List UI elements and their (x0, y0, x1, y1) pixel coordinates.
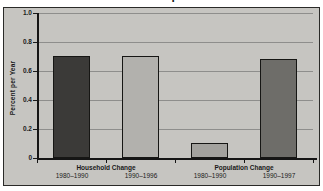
x-tick-mark (175, 160, 176, 163)
bar-household-change-1980-1990 (53, 56, 90, 158)
x-tick-mark (313, 160, 314, 163)
y-tick-label: 0.2 (12, 125, 32, 133)
gridline (37, 42, 313, 43)
chart-panel: Percent per Year 1.00.80.60.40.20 1980–1… (3, 7, 320, 186)
x-axis-group-label: Household Change (46, 164, 166, 172)
y-tick-label: 0.6 (12, 67, 32, 75)
y-tick-label: 0.8 (12, 38, 32, 46)
bar-population-change-1980-1990 (191, 143, 228, 158)
y-tick-label: 1.0 (12, 9, 32, 17)
figure: Households and Population Growth Percent… (0, 0, 323, 191)
x-tick-mark (106, 160, 107, 163)
x-tick-mark (37, 160, 38, 163)
x-tick-mark (244, 160, 245, 163)
x-axis-period-label: 1990–1997 (247, 172, 311, 180)
y-tick-label: 0.4 (12, 96, 32, 104)
x-axis-period-label: 1990–1996 (109, 172, 173, 180)
y-tick-label: 0 (12, 154, 32, 162)
bar-population-change-1990-1997 (260, 59, 297, 158)
gridline (37, 13, 313, 14)
x-axis-group-label: Population Change (184, 164, 304, 172)
y-axis-line (37, 13, 39, 160)
x-axis-period-label: 1980–1990 (178, 172, 242, 180)
x-axis-period-label: 1980–1990 (40, 172, 104, 180)
x-axis-line (37, 158, 317, 160)
bar-household-change-1990-1996 (122, 56, 159, 158)
figure-title: Households and Population Growth (0, 0, 323, 2)
